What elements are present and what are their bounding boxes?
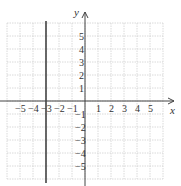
y-tick-label: 4 xyxy=(79,44,84,55)
y-tick-label: −3 xyxy=(75,135,86,146)
x-tick-label: −4 xyxy=(28,103,39,114)
x-tick-label: 4 xyxy=(135,103,140,114)
axes: x y xyxy=(0,6,175,186)
y-tick-label: −4 xyxy=(75,148,86,159)
y-tick-label: 1 xyxy=(79,83,84,94)
x-axis-label: x xyxy=(169,104,175,116)
x-tick-label: 2 xyxy=(109,103,114,114)
y-tick-label: 2 xyxy=(79,70,84,81)
y-tick-label: 5 xyxy=(79,31,84,42)
y-tick-label: −2 xyxy=(75,122,86,133)
y-tick-label: −1 xyxy=(75,109,86,120)
y-tick-label: 3 xyxy=(79,57,84,68)
x-tick-label: 3 xyxy=(122,103,127,114)
x-tick-label: 1 xyxy=(96,103,101,114)
x-tick-label: −2 xyxy=(54,103,65,114)
y-tick-label: −5 xyxy=(75,161,86,172)
y-axis-label: y xyxy=(73,6,79,18)
coordinate-plane: x y −5−4−3−2−112345 54321−1−2−3−4−5 xyxy=(0,0,181,186)
x-tick-label: −5 xyxy=(15,103,26,114)
x-tick-label: 5 xyxy=(148,103,153,114)
